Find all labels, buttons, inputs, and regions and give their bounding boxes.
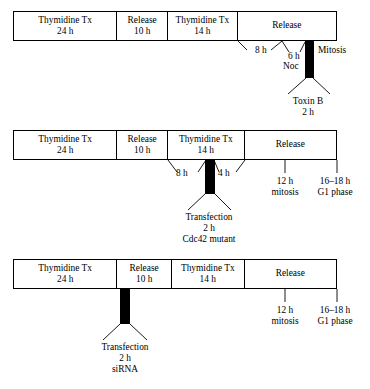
panel-1-endpoint-mitosis: Mitosis (318, 45, 346, 56)
panel-2-leader-transfection-right (215, 194, 231, 210)
phase-duration: 24 h (57, 145, 73, 155)
panel-3-timepoint-1-time: 12 h (277, 305, 293, 316)
phase-duration: 14 h (194, 26, 210, 36)
panel-3-phase-release-2: Release (245, 260, 336, 288)
phase-duration: 24 h (57, 274, 73, 284)
phase-label: Thymidine Tx (38, 15, 92, 25)
panel-1-interval-6h: 6 h (288, 51, 300, 62)
panel-1-callout-toxin-b: Toxin B (293, 96, 323, 107)
phase-duration: 14 h (198, 145, 214, 155)
panel-3-callout-transfection: Transfection (101, 342, 148, 353)
panel-2-phase-thymidine-2: Thymidine Tx 14 h (168, 131, 245, 159)
panel-1-leader-toxinb-left (288, 78, 306, 94)
panel-2-interval-4h: 4 h (218, 168, 230, 179)
phase-label: Release (276, 139, 305, 149)
panel-3-phase-release-1: Release 10 h (117, 260, 172, 288)
phase-duration: 10 h (134, 26, 150, 36)
panel-3-phase-thymidine-2: Thymidine Tx 14 h (172, 260, 245, 288)
panel-2-timepoint-2-event: G1 phase (317, 187, 352, 198)
panel-2-phase-thymidine-1: Thymidine Tx 24 h (14, 131, 117, 159)
panel-2-leader-4h-right (236, 160, 245, 172)
panel-3-callout-sirna: siRNA (112, 364, 138, 375)
phase-duration: 14 h (200, 274, 216, 284)
panel-1-phase-thymidine-2: Thymidine Tx 14 h (168, 12, 238, 40)
phase-label: Thymidine Tx (175, 15, 229, 25)
panel-2-transfection-block (205, 160, 215, 194)
phase-label: Release (276, 268, 305, 278)
panel-1-leader-8h-left (238, 41, 247, 50)
leader-line-overlay (0, 0, 370, 389)
panel-3-leader-transfection-right (130, 324, 147, 340)
panel-2-timepoint-1-time: 12 h (277, 176, 293, 187)
phase-label: Thymidine Tx (38, 263, 92, 273)
phase-duration: 10 h (134, 145, 150, 155)
panel-1-callout-toxin-b-duration: 2 h (302, 107, 314, 118)
panel-1-phase-release-1: Release 10 h (117, 12, 168, 40)
panel-1-phase-release-2: Release (238, 12, 336, 40)
panel-1-leader-8h-right (271, 41, 282, 50)
panel-1-leader-toxinb-right (313, 78, 330, 94)
panel-1-nocodazole-block (305, 41, 314, 78)
panel-1-interval-8h: 8 h (255, 45, 267, 56)
panel-3-phase-thymidine-1: Thymidine Tx 24 h (14, 260, 117, 288)
panel-2-callout-transfection: Transfection (185, 212, 232, 223)
phase-label: Thymidine Tx (38, 134, 92, 144)
panel-2-phase-release-1: Release 10 h (117, 131, 168, 159)
phase-label: Thymidine Tx (181, 263, 235, 273)
panel-3-timepoint-1-event: mitosis (271, 316, 298, 327)
panel-3-leader-transfection-left (103, 324, 120, 340)
panel-2-leader-transfection-left (188, 194, 205, 210)
panel-3-timepoint-2-time: 16–18 h (320, 305, 350, 316)
panel-1-agent-noc: Noc (283, 61, 299, 72)
phase-duration: 24 h (57, 26, 73, 36)
phase-label: Release (128, 15, 157, 25)
panel-2-timepoint-1-event: mitosis (271, 187, 298, 198)
phase-label: Thymidine Tx (179, 134, 233, 144)
phase-duration: 10 h (136, 274, 152, 284)
panel-2-callout-transfection-duration: 2 h (203, 223, 215, 234)
panel-2-callout-cdc42-mutant: Cdc42 mutant (183, 234, 236, 245)
panel-3-transfection-block (120, 289, 130, 324)
panel-2-interval-8h: 8 h (176, 168, 188, 179)
phase-label: Release (128, 134, 157, 144)
phase-label: Release (272, 20, 301, 30)
panel-2-phase-release-2: Release (245, 131, 336, 159)
phase-label: Release (130, 263, 159, 273)
panel-3-timeline-bar: Thymidine Tx 24 h Release 10 h Thymidine… (13, 259, 337, 289)
panel-3-timepoint-2-event: G1 phase (317, 316, 352, 327)
panel-1-phase-thymidine-1: Thymidine Tx 24 h (14, 12, 117, 40)
panel-1-timeline-bar: Thymidine Tx 24 h Release 10 h Thymidine… (13, 11, 337, 41)
panel-2-timeline-bar: Thymidine Tx 24 h Release 10 h Thymidine… (13, 130, 337, 160)
panel-2-timepoint-2-time: 16–18 h (320, 176, 350, 187)
panel-3-callout-transfection-duration: 2 h (119, 353, 131, 364)
